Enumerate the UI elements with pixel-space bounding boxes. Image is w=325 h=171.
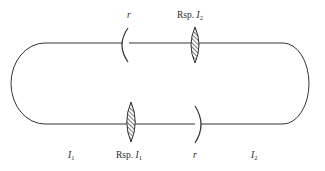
top-lens-icon	[191, 27, 199, 63]
bottom-lens-label: Rsp. I1	[116, 150, 142, 161]
beam-path-right-loop	[199, 43, 309, 124]
top-mirror-label: r	[127, 10, 131, 20]
bottom-lens-icon	[127, 102, 136, 142]
top-mirror-icon	[122, 28, 128, 62]
region-i1-label: I1	[67, 150, 74, 161]
top-lens-label: Rsp. I2	[177, 10, 203, 21]
region-i2-label: I2	[250, 150, 257, 161]
beam-path-left-loop	[11, 43, 128, 124]
bottom-mirror-label: r	[193, 150, 197, 160]
bottom-mirror-icon	[195, 106, 201, 143]
ring-resonator-diagram: r Rsp. I2 I1 Rsp. I1 r I2	[0, 0, 325, 171]
